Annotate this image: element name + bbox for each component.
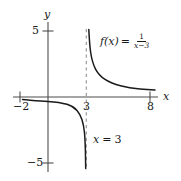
y-tick-label-negative-5: −5 xyxy=(27,157,43,168)
x-tick-label-3: 3 xyxy=(83,101,90,112)
plot-canvas xyxy=(0,0,181,181)
formula-function-name: f(x) xyxy=(100,36,119,47)
formula-fraction: 1 x−3 xyxy=(132,33,151,50)
y-tick-label-5: 5 xyxy=(32,25,39,36)
asymptote-value: 3 xyxy=(114,133,121,146)
x-tick-label-negative-2: −2 xyxy=(13,101,29,112)
asymptote-variable: x xyxy=(93,133,99,146)
x-axis-label: x xyxy=(163,91,169,102)
function-formula-annotation: f(x) = 1 x−3 xyxy=(100,33,151,50)
x-tick-label-8: 8 xyxy=(147,101,154,112)
asymptote-annotation: x=3 xyxy=(93,134,121,145)
y-axis-label: y xyxy=(44,9,50,20)
formula-denominator: x−3 xyxy=(132,42,151,50)
asymptote-equals: = xyxy=(102,133,111,146)
formula-equals-sign: = xyxy=(121,36,130,47)
function-graph-figure: y x 5 −5 −2 3 8 x=3 f(x) = 1 x−3 xyxy=(0,0,181,181)
